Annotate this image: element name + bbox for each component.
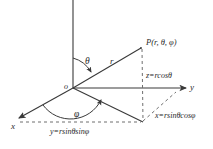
theta-angle-label: θ xyxy=(85,57,90,67)
z-component-dashed-line xyxy=(142,49,143,121)
x-component-label: x=rsinθcosφ xyxy=(155,112,195,120)
x-axis-label: x xyxy=(11,122,15,131)
spherical-coordinates-diagram: P(r, θ, φ) o y x θ φ r z=rcosθ x=rsinθco… xyxy=(0,0,213,149)
y-component-label: y=rsinθsinφ xyxy=(50,128,89,136)
point-p-marker xyxy=(140,47,142,49)
radius-segment xyxy=(73,48,141,88)
z-component-label: z=rcosθ xyxy=(146,72,172,80)
phi-angle-label: φ xyxy=(74,110,79,120)
origin-label: o xyxy=(64,83,68,91)
phi-angle-arc xyxy=(43,100,101,119)
x-axis-line xyxy=(19,88,73,118)
y-axis-label: y xyxy=(190,83,194,92)
diagram-canvas xyxy=(0,0,213,149)
point-p-label: P(r, θ, φ) xyxy=(146,38,177,47)
radius-label: r xyxy=(110,57,114,66)
